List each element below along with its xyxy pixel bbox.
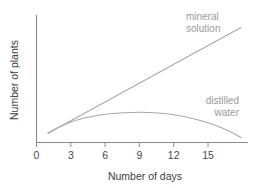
series-label-distilled-water: distilled water bbox=[187, 95, 239, 118]
x-tick-label-9: 9 bbox=[136, 149, 142, 161]
series-label-mineral-line2: solution bbox=[186, 23, 220, 35]
x-tick-label-6: 6 bbox=[102, 149, 108, 161]
y-axis-title: Number of plants bbox=[8, 40, 20, 120]
chart-container: 0 3 6 9 12 15 Number of days Number of p… bbox=[0, 0, 254, 188]
x-tick-label-12: 12 bbox=[168, 149, 180, 161]
x-tick-label-0: 0 bbox=[34, 149, 40, 161]
series-label-distilled-line1: distilled bbox=[187, 95, 239, 107]
x-tick-label-15: 15 bbox=[202, 149, 214, 161]
x-axis-title: Number of days bbox=[108, 170, 182, 182]
series-label-mineral-solution: mineral solution bbox=[186, 11, 220, 34]
series-label-mineral-line1: mineral bbox=[186, 11, 220, 23]
x-tick-label-3: 3 bbox=[68, 149, 74, 161]
series-label-distilled-line2: water bbox=[187, 107, 239, 119]
